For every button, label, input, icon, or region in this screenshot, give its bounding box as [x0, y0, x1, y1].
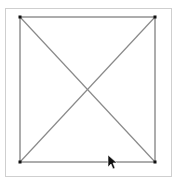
mouse-cursor-icon: [108, 155, 117, 169]
vertex-handle-bottom-right[interactable]: [154, 161, 157, 164]
vertex-handle-top-left[interactable]: [19, 16, 22, 19]
drawing-canvas[interactable]: [0, 0, 179, 183]
vertex-handle-top-right[interactable]: [154, 16, 157, 19]
vertex-handle-bottom-left[interactable]: [19, 161, 22, 164]
